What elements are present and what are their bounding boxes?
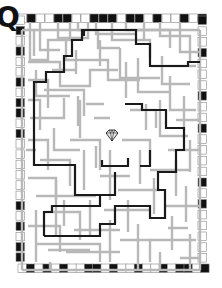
- frame-square: [16, 57, 25, 65]
- frame-square: [26, 264, 35, 273]
- frame-square: [117, 14, 126, 23]
- frame-square: [126, 14, 135, 23]
- frame-square: [153, 14, 162, 23]
- frame-square: [35, 264, 44, 273]
- frame-square: [16, 232, 25, 241]
- frame-square: [16, 119, 25, 128]
- frame-square: [16, 98, 25, 107]
- frame-square: [16, 140, 25, 149]
- frame-square: [176, 264, 185, 273]
- frame-square: [27, 14, 36, 23]
- frame-square: [16, 78, 25, 87]
- frame-square: [81, 14, 90, 23]
- frame-square: [16, 212, 25, 221]
- corner-glyph: Q: [0, 4, 20, 32]
- frame-square: [60, 264, 69, 273]
- frame-square: [36, 14, 45, 23]
- frame-square: [76, 264, 85, 273]
- frame-square: [16, 243, 25, 252]
- frame-square: [171, 14, 180, 23]
- frame-square: [16, 68, 25, 77]
- maze-walls: [22, 22, 200, 270]
- frame-square: [16, 150, 25, 159]
- maze-board[interactable]: [0, 0, 222, 288]
- frame-square: [189, 14, 198, 23]
- frame-square: [162, 14, 171, 23]
- frame-square: [16, 201, 25, 210]
- frame-square: [101, 264, 110, 273]
- frame-square: [201, 264, 210, 273]
- frame-square: [16, 191, 25, 200]
- frame-square: [16, 109, 25, 118]
- frame-square: [16, 181, 25, 190]
- maze-puzzle: Q: [0, 0, 222, 288]
- frame-square: [90, 14, 99, 23]
- diamond-icon[interactable]: [106, 130, 118, 141]
- frame-square: [16, 88, 25, 97]
- frame-square: [118, 264, 127, 273]
- frame-square: [16, 47, 25, 56]
- frame-square: [93, 264, 102, 273]
- frame-square: [109, 264, 118, 273]
- frame-square: [16, 129, 25, 138]
- frame-square: [108, 14, 117, 23]
- frame-square: [126, 264, 134, 273]
- frame-square: [184, 264, 193, 273]
- frame-square: [16, 222, 25, 231]
- frame-square: [135, 14, 144, 23]
- frame-square: [143, 264, 152, 273]
- frame-square: [180, 14, 189, 23]
- frame-square: [16, 253, 25, 262]
- frame-square: [16, 171, 25, 180]
- frame-square: [144, 14, 153, 23]
- frame-square: [63, 14, 72, 23]
- frame-square: [72, 14, 81, 23]
- frame-square: [16, 160, 25, 169]
- frame-square: [84, 264, 93, 273]
- frame-square: [198, 16, 207, 25]
- frame-square: [167, 264, 176, 273]
- frame-square: [99, 14, 108, 23]
- frame-square: [16, 37, 25, 46]
- frame-square: [68, 264, 77, 273]
- frame-square: [45, 14, 54, 23]
- frame-square: [54, 14, 63, 23]
- frame-square: [51, 264, 60, 273]
- frame-square: [151, 264, 160, 273]
